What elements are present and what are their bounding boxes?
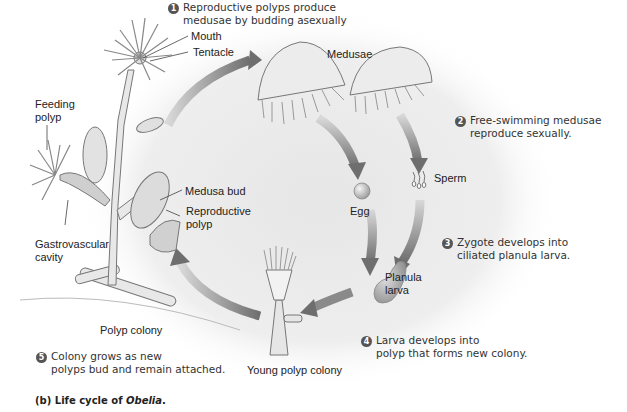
- label-sperm: Sperm: [434, 172, 466, 185]
- step-text-line1: Reproductive polyps produce: [183, 1, 336, 13]
- label-planula-line2: larva: [385, 284, 409, 296]
- step-text-line2: ciliated planula larva.: [442, 249, 570, 262]
- label-reproductive-polyp: Reproductive polyp: [186, 205, 251, 231]
- figure-caption: (b) Life cycle of Obelia.: [35, 395, 166, 406]
- step-2: 2Free-swimming medusae reproduce sexuall…: [455, 114, 601, 140]
- label-reproductive-polyp-line2: polyp: [186, 218, 212, 230]
- step-badge: 4: [361, 336, 372, 347]
- step-1: 1Reproductive polyps produce medusae by …: [168, 1, 347, 27]
- step-3: 3Zygote develops into ciliated planula l…: [442, 236, 570, 262]
- step-text-line1: Larva develops into: [376, 334, 479, 346]
- step-text-line2: medusae by budding asexually: [168, 14, 347, 27]
- caption-suffix: .: [162, 395, 166, 406]
- obelia-life-cycle-diagram: Mouth Tentacle Feeding polyp Medusa bud …: [0, 0, 627, 412]
- label-medusae: Medusae: [327, 48, 372, 61]
- label-young-polyp-colony: Young polyp colony: [247, 364, 342, 377]
- label-planula-line1: Planula: [385, 271, 422, 283]
- label-feeding-polyp-line1: Feeding: [35, 98, 75, 110]
- step-text-line2: polyps bud and remain attached.: [36, 363, 225, 376]
- label-medusa-bud: Medusa bud: [185, 185, 246, 198]
- label-gastrovascular-cavity: Gastrovascular cavity: [35, 238, 109, 264]
- step-badge: 1: [168, 3, 179, 14]
- step-badge: 2: [455, 116, 466, 127]
- step-text-line2: reproduce sexually.: [455, 127, 601, 140]
- step-badge: 5: [36, 352, 47, 363]
- arrow-egg-to-larva: [370, 210, 373, 262]
- step-5: 5Colony grows as new polyps bud and rema…: [36, 350, 225, 376]
- label-tentacle: Tentacle: [193, 46, 234, 59]
- label-gastrovascular-line2: cavity: [35, 251, 63, 263]
- label-feeding-polyp: Feeding polyp: [35, 98, 75, 124]
- step-4: 4Larva develops into polyp that forms ne…: [361, 334, 527, 360]
- step-text-line1: Zygote develops into: [457, 236, 568, 248]
- label-egg: Egg: [350, 205, 370, 218]
- label-mouth: Mouth: [191, 30, 222, 43]
- caption-genus: Obelia: [126, 395, 162, 406]
- step-text-line1: Colony grows as new: [51, 350, 162, 362]
- label-feeding-polyp-line2: polyp: [35, 111, 61, 123]
- caption-prefix: (b) Life cycle of: [35, 395, 126, 406]
- label-gastrovascular-line1: Gastrovascular: [35, 238, 109, 250]
- label-polyp-colony: Polyp colony: [100, 324, 162, 337]
- label-planula-larva: Planula larva: [385, 271, 422, 297]
- egg-illustration: [354, 183, 370, 199]
- label-reproductive-polyp-line1: Reproductive: [186, 205, 251, 217]
- step-badge: 3: [442, 238, 453, 249]
- step-text-line1: Free-swimming medusae: [470, 114, 601, 126]
- step-text-line2: polyp that forms new colony.: [361, 347, 527, 360]
